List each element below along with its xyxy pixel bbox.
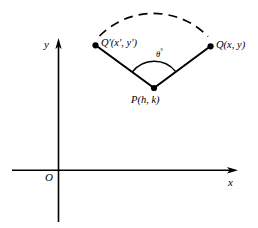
vertex-point-p bbox=[151, 85, 157, 91]
angle-arc-theta bbox=[133, 61, 176, 72]
segment-p-to-q-prime bbox=[96, 46, 154, 89]
x-axis-label: x bbox=[228, 177, 233, 188]
vertex-point-q-prime bbox=[92, 42, 98, 48]
point-label-q: Q(x, y) bbox=[216, 40, 245, 51]
point-label-p: P(h, k) bbox=[131, 95, 160, 106]
dashed-rotation-arc bbox=[100, 13, 209, 36]
rotation-wedge bbox=[92, 13, 213, 91]
origin-label: O bbox=[45, 172, 53, 183]
y-axis-label: y bbox=[44, 39, 49, 50]
geometry-diagram-svg bbox=[0, 0, 258, 228]
vertex-point-q bbox=[208, 43, 214, 49]
point-label-q-prime: Q'(x', y') bbox=[101, 38, 137, 49]
figure-canvas: y x O Q'(x', y') Q(x, y) P(h, k) θ° bbox=[0, 0, 258, 228]
degree-symbol: ° bbox=[160, 47, 163, 55]
angle-label-theta: θ° bbox=[156, 48, 163, 58]
